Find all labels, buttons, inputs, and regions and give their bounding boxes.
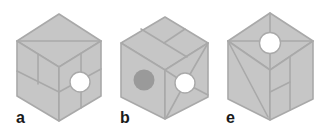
cube-e	[228, 13, 313, 120]
cube-a	[17, 14, 101, 121]
cube-a-white-circle	[70, 72, 90, 92]
cube-b-white-circle	[175, 73, 195, 93]
cube-e-white-circle	[260, 33, 281, 54]
cube-figures	[0, 0, 331, 135]
cube-b	[121, 17, 208, 119]
label-a: a	[16, 110, 25, 126]
label-b: b	[120, 110, 130, 126]
cube-b-grey-circle	[134, 70, 155, 91]
label-e: e	[226, 110, 235, 126]
